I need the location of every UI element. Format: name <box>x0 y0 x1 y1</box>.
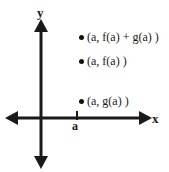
point-label-sum: (a, f(a) + g(a) ) <box>87 31 159 43</box>
x-axis-right-arrow-icon <box>139 111 152 125</box>
point-annotation-sum: (a, f(a) + g(a) ) <box>79 31 159 43</box>
point-annotation-g: (a, g(a) ) <box>79 95 129 107</box>
y-axis-up-arrow-icon <box>34 19 48 32</box>
axes-group <box>0 0 169 172</box>
point-label-g: (a, g(a) ) <box>87 95 129 107</box>
x-axis-left-arrow-icon <box>5 111 18 125</box>
point-dot-icon <box>79 59 84 64</box>
x-axis-tick-label-a: a <box>72 120 78 132</box>
point-annotation-f: (a, f(a) ) <box>79 55 127 67</box>
point-dot-icon <box>79 99 84 104</box>
y-axis-down-arrow-icon <box>34 156 48 169</box>
point-label-f: (a, f(a) ) <box>87 55 127 67</box>
coordinate-plane-figure: y x a (a, f(a) + g(a) ) (a, f(a) ) (a, g… <box>0 0 169 172</box>
y-axis-label: y <box>37 6 44 19</box>
point-dot-icon <box>79 35 84 40</box>
x-axis-label: x <box>152 112 159 125</box>
